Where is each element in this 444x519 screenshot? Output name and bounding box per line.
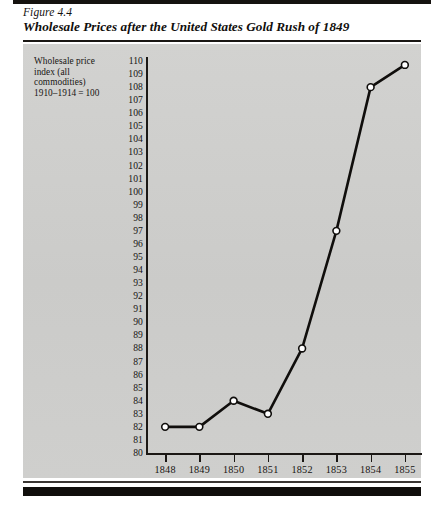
data-point-marker: [367, 84, 374, 91]
chart-panel: Wholesale price index (all commodities) …: [23, 44, 421, 478]
data-series-line: [23, 44, 421, 478]
series-polyline: [165, 65, 405, 427]
figure-number: Figure 4.4: [23, 6, 423, 19]
data-point-marker: [196, 423, 203, 430]
data-point-marker: [299, 345, 306, 352]
data-point-marker: [162, 423, 169, 430]
page-top-rule: [13, 0, 431, 4]
bottom-thick-rule: [23, 487, 421, 496]
data-point-marker: [230, 397, 237, 404]
data-point-marker: [401, 62, 408, 69]
data-point-marker: [333, 227, 340, 234]
caption-rule: [23, 40, 421, 42]
figure-title: Wholesale Prices after the United States…: [23, 19, 423, 34]
bottom-thin-rule: [23, 481, 421, 483]
data-point-marker: [264, 410, 271, 417]
figure-caption: Figure 4.4 Wholesale Prices after the Un…: [23, 6, 423, 34]
